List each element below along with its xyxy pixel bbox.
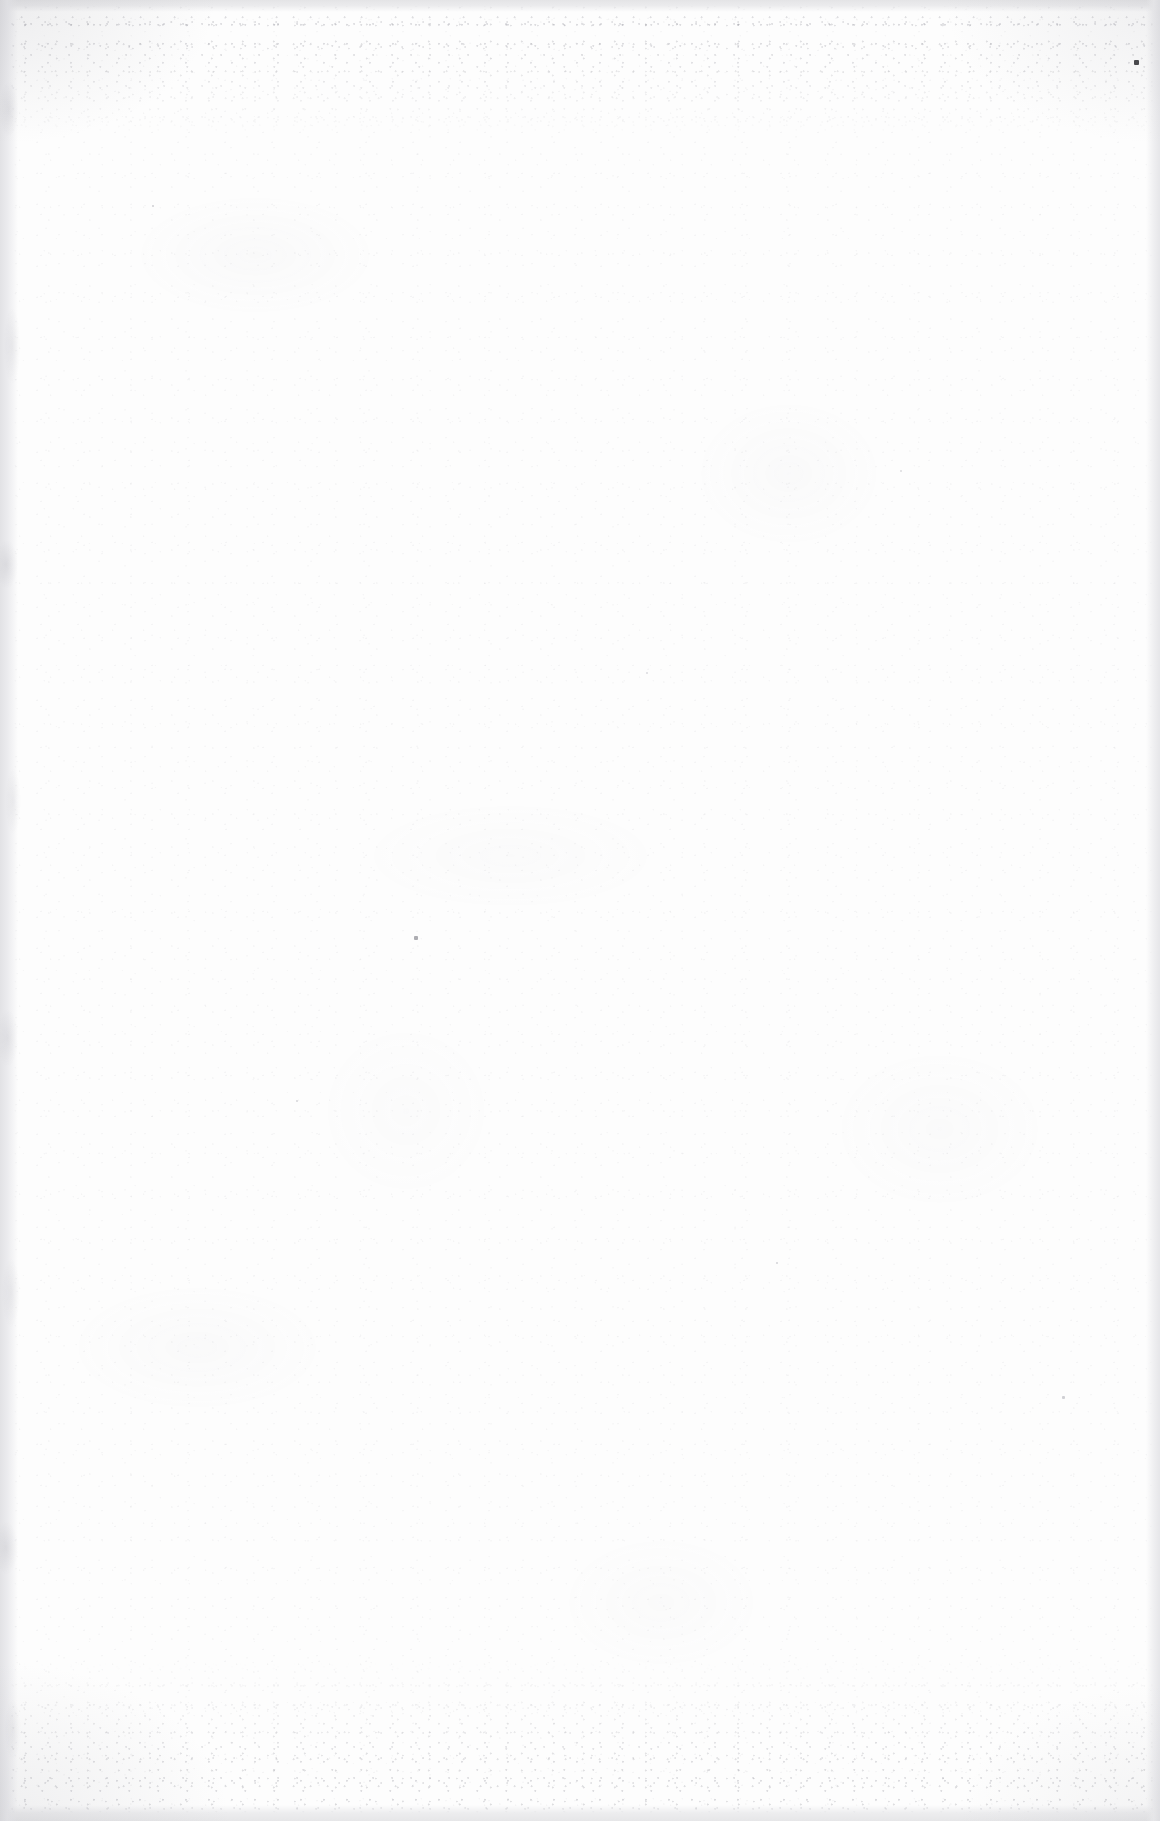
paper-background [0,0,1160,1821]
scanned-page [0,0,1160,1821]
